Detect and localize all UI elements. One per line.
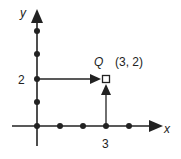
y-axis-label: y [19,6,27,20]
y-axis-arrow-icon [31,9,43,23]
point-q-marker [103,76,110,83]
point-name-label: Q [94,55,103,69]
vertical-arrowhead-icon [101,84,111,95]
point-coords-label: (3, 2) [115,55,143,69]
horizontal-arrowhead-icon [90,74,101,84]
x-axis-label: x [163,122,171,136]
x-axis-arrow-icon [149,120,163,132]
x-tick-label: 3 [102,137,109,151]
coordinate-diagram: y x 2 3 Q (3, 2) [0,0,181,159]
y-tick-label: 2 [18,73,25,87]
